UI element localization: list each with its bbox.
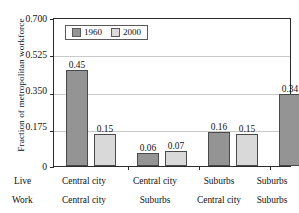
legend[interactable]: 1960 2000	[65, 25, 148, 40]
legend-entry-1960[interactable]: 1960	[72, 28, 102, 37]
legend-swatch-2000-icon	[111, 28, 120, 37]
y-tickmark-0175	[50, 131, 54, 132]
y-tick-label-0175: 0.175	[25, 122, 47, 132]
legend-label-2000: 2000	[123, 28, 141, 37]
category-3-live-label: Suburbs	[186, 177, 252, 186]
legend-entry-2000[interactable]: 2000	[111, 28, 141, 37]
bar-label-1960-central-city-central-city: 0.45	[61, 61, 93, 70]
bar-1960-central-city-central-city[interactable]	[66, 70, 88, 166]
y-tickmark-0	[50, 167, 54, 168]
y-tick-label-0700: 0.700	[25, 14, 47, 24]
x-separator-2	[199, 166, 200, 170]
bar-label-2000-central-city-suburbs: 0.07	[160, 142, 192, 151]
legend-swatch-1960-icon	[72, 28, 81, 37]
plot-area: 0.45 0.15 0.06 0.07 0.16 0.15 0.34 0.62	[53, 18, 291, 167]
bar-2000-central-city-suburbs[interactable]	[165, 151, 187, 166]
category-1-work-label: Central city	[47, 196, 121, 205]
bar-1960-central-city-suburbs[interactable]	[137, 153, 159, 166]
row-key-live: Live	[14, 177, 31, 186]
y-tick-label-0350: 0.350	[25, 86, 47, 96]
x-separator-1	[128, 166, 129, 170]
x-separator-3	[270, 166, 271, 170]
bar-label-1960-suburbs-suburbs: 0.34	[274, 85, 299, 94]
category-4-work-label: Suburbs	[247, 196, 297, 205]
y-tickmark-0350	[50, 94, 54, 95]
bar-label-2000-suburbs-central-city: 0.15	[231, 125, 263, 134]
legend-label-1960: 1960	[84, 28, 102, 37]
category-1-live-label: Central city	[47, 177, 121, 186]
row-key-work: Work	[12, 196, 33, 205]
y-tick-label-0525: 0.525	[25, 50, 47, 60]
bar-2000-central-city-central-city[interactable]	[94, 134, 116, 166]
category-4-live-label: Suburbs	[247, 177, 297, 186]
y-tickmark-0700	[50, 19, 54, 20]
category-2-work-label: Suburbs	[118, 196, 192, 205]
bar-2000-suburbs-central-city[interactable]	[236, 134, 258, 166]
bar-1960-suburbs-central-city[interactable]	[208, 132, 230, 166]
bar-1960-suburbs-suburbs[interactable]	[279, 94, 299, 166]
bar-chart-figure: Fraction of metropolitan workforce 0.700…	[0, 0, 299, 213]
gridline-0525	[54, 56, 290, 57]
y-tickmark-0525	[50, 56, 54, 57]
category-2-live-label: Central city	[118, 177, 192, 186]
category-3-work-label: Central city	[182, 196, 256, 205]
bar-label-2000-central-city-central-city: 0.15	[89, 125, 121, 134]
y-tick-label-0: 0	[42, 162, 47, 172]
gridline-0350	[54, 94, 290, 95]
